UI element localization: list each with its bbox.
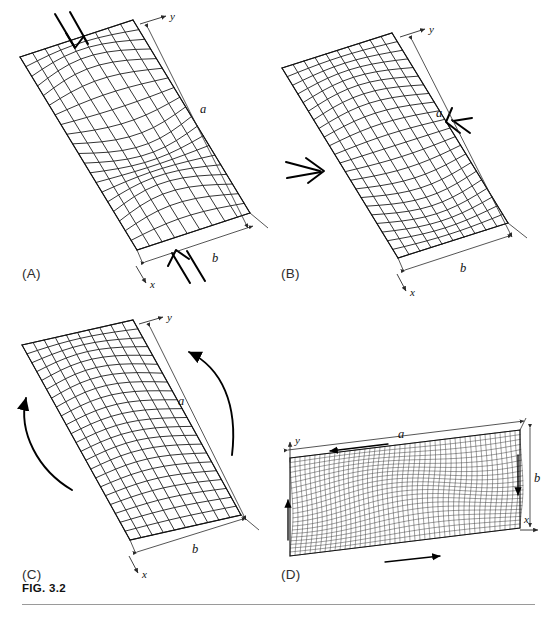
figure-root: abyx abyx abyx abyx (A) (B) (C) (D) FIG.… — [0, 0, 545, 618]
panel-d-drawing: abyx — [288, 418, 540, 562]
figure-drawing-canvas: abyx abyx abyx abyx — [0, 0, 545, 618]
svg-text:b: b — [212, 251, 218, 265]
panel-label-a: (A) — [22, 266, 41, 281]
svg-text:x: x — [149, 278, 155, 290]
svg-text:a: a — [200, 102, 206, 116]
svg-text:y: y — [169, 10, 175, 22]
svg-text:x: x — [409, 286, 415, 298]
svg-text:y: y — [428, 23, 434, 35]
svg-text:y: y — [294, 434, 300, 446]
svg-text:b: b — [192, 542, 198, 556]
panel-a-drawing: abyx — [20, 10, 268, 290]
svg-text:b: b — [534, 471, 540, 485]
svg-text:a: a — [398, 427, 404, 441]
panel-b-drawing: abyx — [282, 23, 527, 298]
panel-c-drawing: abyx — [22, 311, 259, 580]
svg-text:a: a — [436, 106, 442, 120]
svg-text:a: a — [178, 394, 184, 408]
svg-text:x: x — [523, 513, 529, 525]
svg-text:b: b — [460, 261, 466, 275]
svg-text:y: y — [166, 311, 172, 323]
caption-divider — [22, 604, 535, 605]
figure-caption-block: FIG. 3.2 — [0, 576, 545, 618]
panel-label-b: (B) — [281, 266, 300, 281]
figure-caption: FIG. 3.2 — [22, 582, 66, 594]
